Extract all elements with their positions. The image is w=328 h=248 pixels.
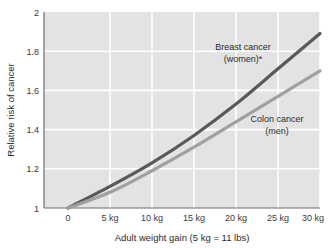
x-tick-15kg: 15 kg: [183, 213, 205, 223]
y-tick-1.6: 1.6: [26, 86, 39, 96]
x-tick-5kg: 5 kg: [101, 213, 118, 223]
y-axis-title: Relative risk of cancer: [5, 63, 16, 156]
annotation-colon-cancer-line1: Colon cancer: [250, 114, 303, 124]
x-tick-10kg: 10 kg: [141, 213, 163, 223]
y-tick-1.8: 1.8: [26, 47, 39, 57]
y-tick-2: 2: [34, 8, 39, 18]
x-tick-25kg: 25 kg: [267, 213, 289, 223]
annotation-breast-cancer-line1: Breast cancer: [215, 42, 271, 52]
y-tick-1.2: 1.2: [26, 164, 39, 174]
x-axis-title: Adult weight gain (5 kg = 11 lbs): [115, 232, 250, 243]
y-tick-1.4: 1.4: [26, 125, 39, 135]
x-tick-20kg: 20 kg: [225, 213, 247, 223]
x-tick-0: 0: [65, 213, 70, 223]
annotation-breast-cancer-line2: (women)*: [224, 54, 263, 64]
y-tick-1: 1: [34, 204, 39, 214]
relative-risk-of-cancer-line-chart: 2 1.8 1.6 1.4 1.2 1 0 5 kg 10 kg 15 kg 2…: [0, 0, 328, 248]
x-axis-tick-labels: 0 5 kg 10 kg 15 kg 20 kg 25 kg 30 kg: [65, 213, 324, 223]
annotation-colon-cancer-line2: (men): [265, 126, 289, 136]
x-tick-30kg: 30 kg: [302, 213, 324, 223]
